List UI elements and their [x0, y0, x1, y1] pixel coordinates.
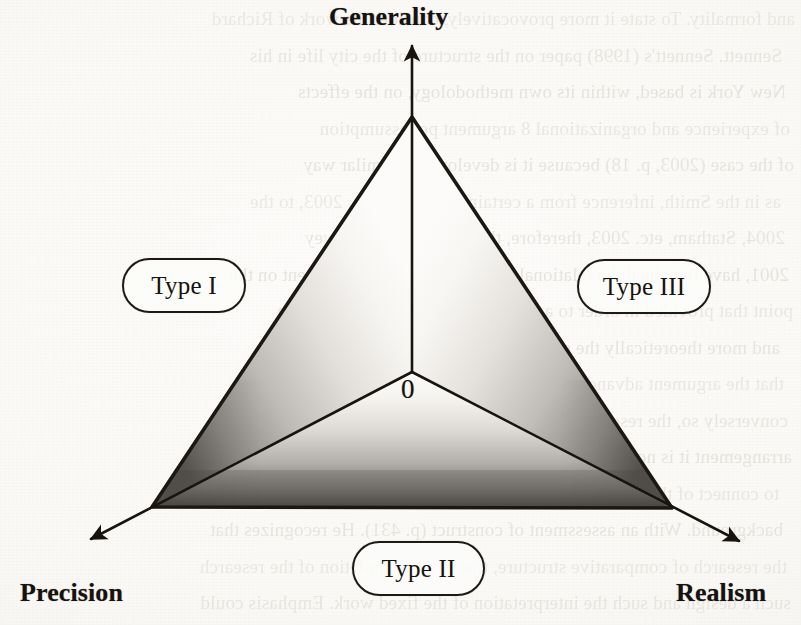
origin-label: 0 — [401, 374, 415, 405]
region-label-type-1-text: Type I — [151, 272, 216, 300]
axis-label-realism: Realism — [676, 578, 766, 608]
region-label-type-3: Type III — [577, 259, 711, 314]
region-label-type-3-text: Type III — [603, 273, 685, 301]
scanned-page: and formality. To state it more provocat… — [0, 0, 801, 625]
axis-label-precision: Precision — [20, 578, 123, 608]
axis-label-generality: Generality — [329, 2, 448, 32]
region-label-type-1: Type I — [122, 258, 246, 313]
region-label-type-2: Type II — [352, 541, 485, 596]
region-label-type-2-text: Type II — [382, 555, 456, 583]
